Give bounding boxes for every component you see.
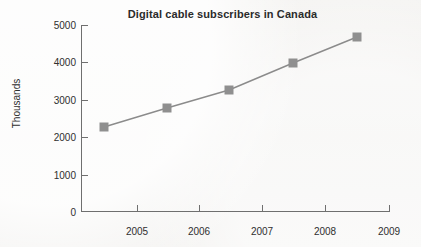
data-series-line — [104, 37, 357, 127]
data-point-marker — [289, 59, 298, 68]
x-axis-ticks — [138, 205, 390, 212]
chart-screenshot: Digital cable subscribers in Canada Thou… — [0, 0, 421, 247]
y-axis-ticks — [81, 26, 88, 212]
data-point-marker — [163, 104, 172, 113]
data-point-marker — [225, 86, 234, 95]
plot-area — [0, 0, 421, 247]
data-point-marker — [353, 33, 362, 42]
data-point-marker — [100, 123, 109, 132]
